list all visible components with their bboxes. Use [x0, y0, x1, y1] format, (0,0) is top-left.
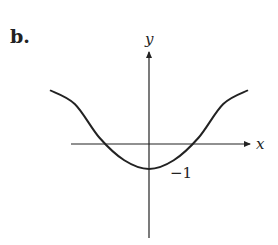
min-annotation: −1 [170, 164, 192, 182]
chart: b. x y −1 [0, 0, 278, 245]
x-axis-label: x [256, 135, 265, 153]
panel-label: b. [10, 25, 30, 47]
y-axis-label: y [144, 30, 154, 48]
